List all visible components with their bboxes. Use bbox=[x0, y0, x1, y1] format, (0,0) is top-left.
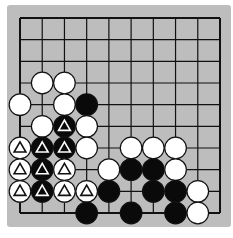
white-stone[interactable] bbox=[165, 159, 187, 181]
black-stone[interactable] bbox=[143, 181, 165, 203]
white-stone[interactable] bbox=[76, 181, 98, 203]
black-stone[interactable] bbox=[31, 137, 53, 159]
white-stone[interactable] bbox=[54, 181, 76, 203]
black-stone[interactable] bbox=[76, 202, 98, 224]
go-board-grid[interactable] bbox=[0, 0, 233, 238]
white-stone[interactable] bbox=[120, 137, 142, 159]
white-stone[interactable] bbox=[187, 202, 209, 224]
white-stone[interactable] bbox=[9, 94, 31, 116]
white-stone[interactable] bbox=[54, 159, 76, 181]
white-stone[interactable] bbox=[187, 181, 209, 203]
white-stone[interactable] bbox=[31, 116, 53, 138]
white-stone[interactable] bbox=[76, 116, 98, 138]
black-stone[interactable] bbox=[54, 137, 76, 159]
black-stone[interactable] bbox=[120, 159, 142, 181]
black-stone[interactable] bbox=[76, 94, 98, 116]
black-stone[interactable] bbox=[54, 116, 76, 138]
white-stone[interactable] bbox=[9, 181, 31, 203]
white-stone[interactable] bbox=[98, 159, 120, 181]
black-stone[interactable] bbox=[31, 159, 53, 181]
black-stone[interactable] bbox=[165, 181, 187, 203]
white-stone[interactable] bbox=[143, 137, 165, 159]
white-stone[interactable] bbox=[54, 72, 76, 94]
black-stone[interactable] bbox=[165, 202, 187, 224]
white-stone[interactable] bbox=[76, 137, 98, 159]
white-stone[interactable] bbox=[54, 94, 76, 116]
black-stone[interactable] bbox=[120, 202, 142, 224]
white-stone[interactable] bbox=[9, 159, 31, 181]
black-stone[interactable] bbox=[98, 181, 120, 203]
white-stone[interactable] bbox=[165, 137, 187, 159]
white-stone[interactable] bbox=[31, 72, 53, 94]
black-stone[interactable] bbox=[31, 181, 53, 203]
white-stone[interactable] bbox=[9, 137, 31, 159]
black-stone[interactable] bbox=[143, 159, 165, 181]
